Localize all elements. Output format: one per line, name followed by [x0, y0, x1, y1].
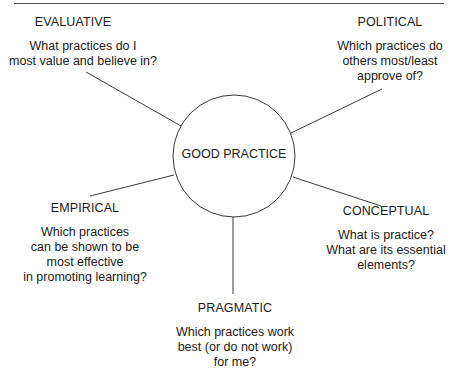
node-title: POLITICAL: [330, 15, 450, 29]
node-empirical: EMPIRICAL Which practices can be shown t…: [20, 201, 150, 285]
node-question: Which practices do others most/least app…: [330, 39, 450, 84]
node-title: EVALUATIVE: [0, 15, 158, 29]
connector-political: [291, 89, 382, 133]
connector-empirical: [90, 175, 174, 196]
node-question: What practices do I most value and belie…: [8, 39, 158, 69]
node-pragmatic: PRAGMATIC Which practices work best (or …: [170, 301, 300, 370]
node-conceptual: CONCEPTUAL What is practice? What are it…: [320, 204, 452, 273]
node-evaluative: EVALUATIVE What practices do I most valu…: [8, 15, 158, 69]
node-title: CONCEPTUAL: [320, 204, 452, 218]
center-label-good-practice: GOOD PRACTICE: [173, 147, 295, 161]
good-practice-diagram: GOOD PRACTICE EVALUATIVE What practices …: [0, 0, 452, 380]
connector-conceptual: [293, 177, 381, 206]
node-title: EMPIRICAL: [20, 201, 150, 215]
node-political: POLITICAL Which practices do others most…: [330, 15, 450, 84]
connector-evaluative: [86, 72, 181, 126]
node-title: PRAGMATIC: [170, 301, 300, 315]
node-question: Which practices work best (or do not wor…: [170, 325, 300, 370]
node-question: What is practice? What are its essential…: [320, 228, 452, 273]
node-question: Which practices can be shown to be most …: [20, 225, 150, 285]
